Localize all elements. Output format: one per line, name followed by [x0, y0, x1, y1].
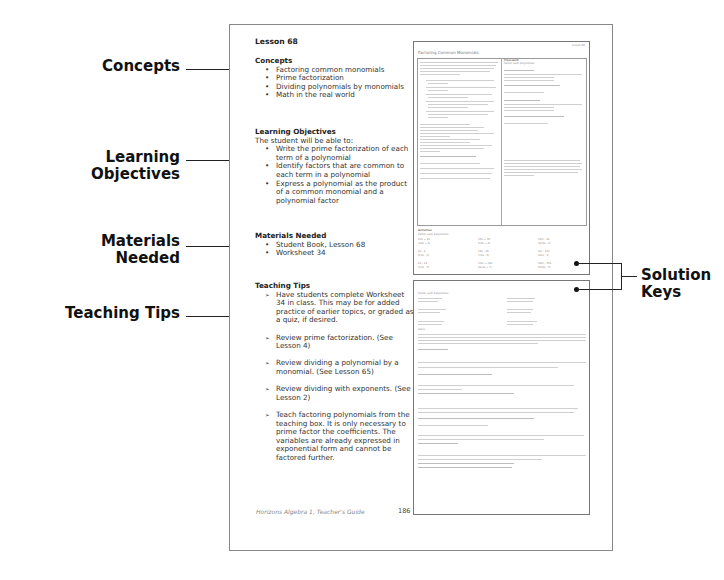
- callout-solution-keys: Solution Keys: [641, 267, 721, 301]
- callout-learning-objectives: Learning Objectives: [20, 149, 180, 183]
- callout-teaching-tips: Teaching Tips: [60, 305, 180, 322]
- list-item: Teach factoring polynomials from the tea…: [265, 411, 415, 463]
- connector-solution-tick: [621, 276, 637, 277]
- thumb-activity-answer: 3x(5x - 2): [538, 242, 551, 245]
- thumb-activities-prompt: Factor each polynomial.: [418, 233, 449, 236]
- learning-objectives-section: Learning Objectives The student will be …: [255, 128, 415, 205]
- solution-key-thumbnail-top: Lesson 68 Factoring Common Monomials Cla…: [413, 41, 590, 275]
- thumb-activity-answer: 4(2x - 1): [418, 254, 429, 257]
- list-item: Review prime factorization. (See Lesson …: [265, 334, 415, 351]
- solution-key-thumbnail-bottom: Factor each polynomial. Solve.: [413, 280, 590, 515]
- thumb-solve-heading: Solve.: [418, 328, 426, 331]
- concepts-list: Factoring common monomials Prime factori…: [255, 66, 415, 100]
- page-left-column: Lesson 68 Concepts Factoring common mono…: [255, 38, 415, 55]
- page-number: 186: [398, 507, 410, 515]
- thumb-activity-problem: 15x² - 6x: [538, 238, 550, 241]
- callout-concepts: Concepts: [100, 58, 180, 75]
- thumb-activity-problem: 15x + 20: [478, 238, 490, 241]
- teaching-tips-list: Have students complete Worksheet 34 in c…: [255, 291, 415, 463]
- thumb-activities-heading: Activities: [418, 229, 432, 232]
- thumb-activity-answer: 4x(3x + 7): [478, 266, 492, 269]
- materials-needed-list: Student Book, Lesson 68 Worksheet 34: [255, 241, 415, 258]
- thumb-lesson-tag: Lesson 68: [572, 44, 585, 47]
- list-item: Write the prime factorization of each te…: [265, 145, 415, 162]
- list-item: Review dividing with exponents. (See Les…: [265, 385, 415, 402]
- thumb-prompt: Factor each polynomial.: [418, 292, 449, 295]
- materials-needed-section: Materials Needed Student Book, Lesson 68…: [255, 232, 415, 258]
- thumb-activity-problem: 8x - 4: [418, 250, 425, 253]
- concepts-section: Concepts Factoring common monomials Prim…: [255, 57, 415, 100]
- list-item: Review dividing a polynomial by a monomi…: [265, 359, 415, 376]
- page-footer: Horizons Algebra 1, Teacher's Guide: [256, 508, 365, 515]
- thumb-activity-answer: 5x(4x - 5): [538, 266, 551, 269]
- callout-solution-keys-line1: Solution: [641, 267, 721, 284]
- thumb-activity-problem: 14x - 35: [478, 250, 489, 253]
- list-item: Worksheet 34: [265, 249, 415, 258]
- connector-solution-bottom: [577, 289, 622, 290]
- connector-solution-top: [577, 263, 622, 264]
- list-item: Express a polynomial as the product of a…: [265, 180, 415, 206]
- thumb-activity-answer: 4x(x - 3): [538, 254, 549, 257]
- list-item: Have students complete Worksheet 34 in c…: [265, 291, 415, 325]
- list-item: Identify factors that are common to each…: [265, 162, 415, 179]
- thumb-activity-problem: 12x² + 28x: [478, 262, 493, 265]
- thumb-activity-answer: 5(3x + 4): [478, 242, 490, 245]
- lesson-title: Lesson 68: [255, 38, 415, 47]
- thumb-activity-answer: 2(3x - 7): [418, 266, 429, 269]
- thumb-activity-problem: 20x² - 25x: [538, 262, 551, 265]
- callout-solution-keys-line2: Keys: [641, 284, 721, 301]
- thumb-activity-problem: 4x² - 12x: [538, 250, 550, 253]
- thumb-activity-problem: 12x + 15: [418, 238, 430, 241]
- teaching-tips-section: Teaching Tips Have students complete Wor…: [255, 282, 415, 471]
- callout-materials-needed: Materials Needed: [40, 233, 180, 267]
- list-item: Math in the real world: [265, 91, 415, 100]
- thumb-classwork-prompt: Factor each polynomial.: [504, 62, 535, 65]
- thumb-activity-answer: 7(2x - 5): [478, 254, 489, 257]
- thumb-box-divider: [501, 58, 502, 226]
- thumb-activity-problem: 6x - 14: [418, 262, 427, 265]
- thumb-activity-answer: 3(4x + 5): [418, 242, 430, 245]
- thumb-title: Factoring Common Monomials: [418, 51, 479, 54]
- learning-objectives-list: Write the prime factorization of each te…: [255, 145, 415, 205]
